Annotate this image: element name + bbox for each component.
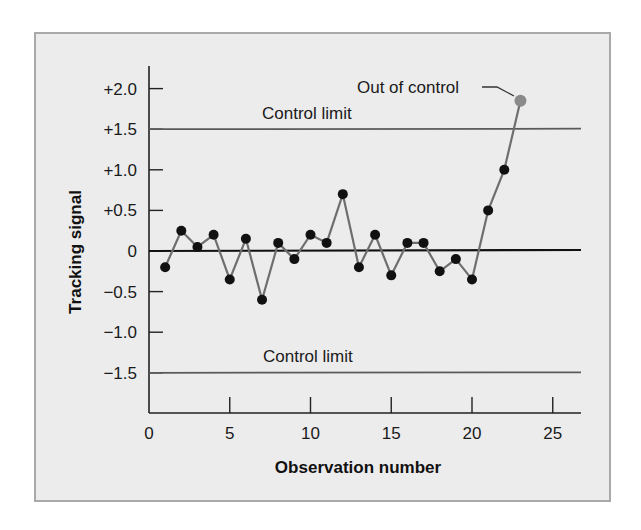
reference-lines: [149, 129, 581, 373]
data-point: [386, 270, 396, 280]
data-point: [467, 274, 477, 284]
tracking-signal-chart: +2.0+1.5+1.0+0.50−0.5−1.0−1.50510152025 …: [0, 0, 641, 530]
upper-control-limit: [149, 129, 581, 130]
series-line: [165, 101, 520, 300]
x-tick-label: 20: [463, 424, 482, 443]
data-point: [402, 238, 412, 248]
data-point: [483, 205, 493, 215]
data-point: [306, 230, 316, 240]
series-tracking-signal: [160, 95, 526, 305]
data-point: [499, 165, 509, 175]
x-tick-label: 15: [382, 424, 401, 443]
data-point: [354, 262, 364, 272]
data-point: [419, 238, 429, 248]
upper-control-limit-label: Control limit: [262, 104, 352, 123]
y-tick-label: +2.0: [103, 80, 137, 99]
x-tick-label: 25: [543, 424, 562, 443]
y-tick-label: +1.0: [103, 161, 137, 180]
data-point: [209, 230, 219, 240]
y-tick-label: −0.5: [103, 283, 137, 302]
x-tick-label: 5: [225, 424, 234, 443]
lower-control-limit: [149, 372, 581, 373]
y-axis-title: Tracking signal: [66, 190, 85, 314]
lower-control-limit-label: Control limit: [263, 347, 353, 366]
y-tick-label: +1.5: [103, 120, 137, 139]
data-point: [176, 226, 186, 236]
out-of-control-point: [514, 95, 526, 107]
x-axis-title: Observation number: [275, 458, 442, 477]
y-tick-label: +0.5: [103, 201, 137, 220]
out-of-control-label: Out of control: [357, 78, 459, 97]
y-tick-label: −1.0: [103, 323, 137, 342]
data-point: [160, 262, 170, 272]
data-point: [192, 242, 202, 252]
data-point: [289, 254, 299, 264]
data-point: [225, 274, 235, 284]
y-tick-label: −1.5: [103, 364, 137, 383]
data-point: [273, 238, 283, 248]
data-point: [338, 189, 348, 199]
x-tick-label: 10: [301, 424, 320, 443]
data-point: [257, 295, 267, 305]
data-point: [435, 266, 445, 276]
out-of-control-leader-line: [482, 87, 514, 96]
data-point: [241, 234, 251, 244]
data-point: [370, 230, 380, 240]
data-point: [451, 254, 461, 264]
x-tick-label: 0: [144, 424, 153, 443]
zero-line: [149, 250, 581, 251]
data-point: [322, 238, 332, 248]
y-tick-label: 0: [128, 242, 137, 261]
